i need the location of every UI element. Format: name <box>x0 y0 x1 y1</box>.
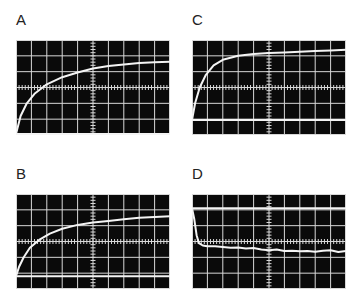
panel-label-d: D <box>192 166 203 181</box>
oscilloscope-screen-a <box>16 40 170 135</box>
panel-label-b: B <box>16 166 26 181</box>
graticule-b <box>16 194 170 289</box>
oscilloscope-screen-c <box>192 40 346 135</box>
graticule-d <box>192 194 346 289</box>
graticule-a <box>16 40 170 135</box>
panel-label-c: C <box>192 12 203 27</box>
oscilloscope-screen-b <box>16 194 170 289</box>
oscilloscope-screen-d <box>192 194 346 289</box>
graticule-c <box>192 40 346 135</box>
panel-label-a: A <box>16 12 26 27</box>
